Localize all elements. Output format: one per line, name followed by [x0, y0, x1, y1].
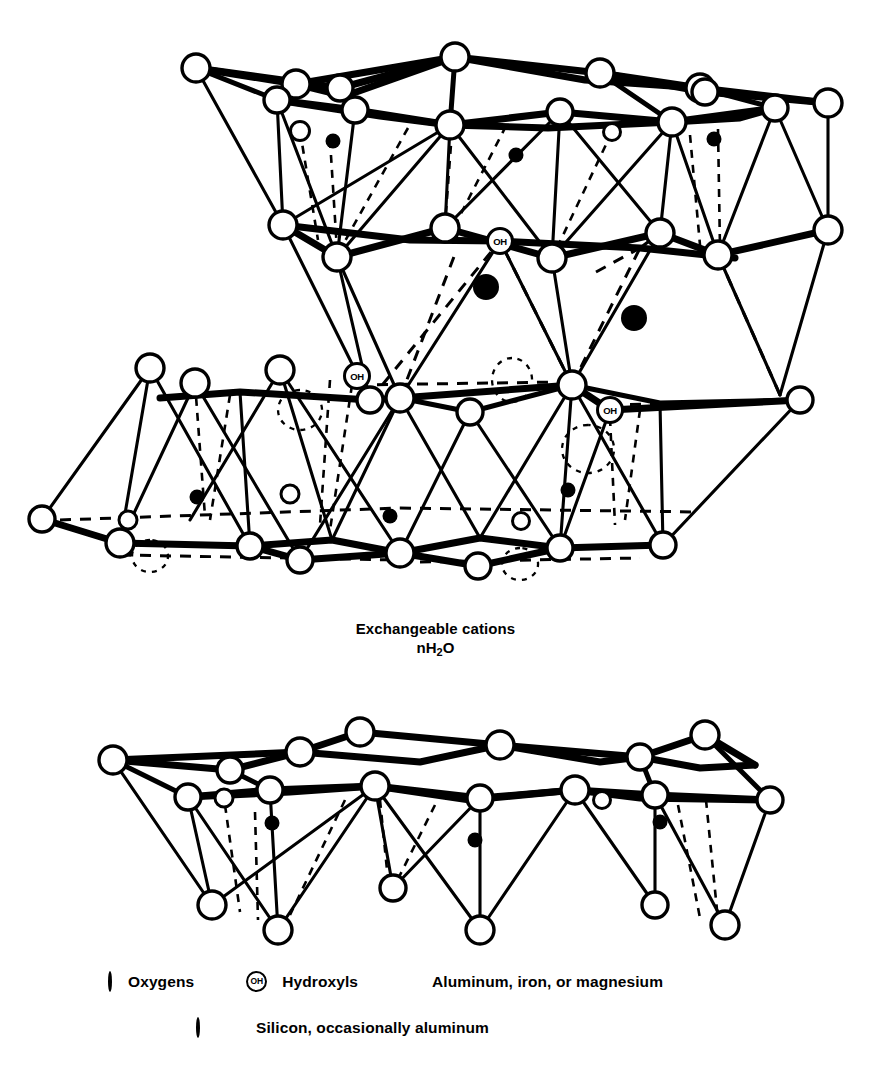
apical-oxygen	[604, 124, 621, 141]
octahedral-cation	[473, 274, 499, 300]
hydroxyl-group: OH	[488, 229, 513, 254]
oxygen	[787, 387, 813, 413]
oxygen	[237, 533, 263, 559]
oxygen	[486, 731, 514, 759]
oxygen	[346, 718, 374, 746]
oxygen	[361, 772, 389, 800]
oxygen	[692, 79, 718, 105]
silicon-cation	[326, 134, 341, 149]
legend-item-silicon: Silicon, occasionally aluminum	[196, 1019, 489, 1037]
oxygen	[436, 111, 464, 139]
oxygen	[762, 95, 788, 121]
oxygen	[217, 757, 243, 783]
oxygen	[704, 241, 732, 269]
oxygen	[386, 539, 414, 567]
oxygen	[257, 777, 283, 803]
oxygen	[264, 916, 292, 944]
silicon-cation	[265, 816, 280, 831]
legend-row-2: Silicon, occasionally aluminum	[0, 1019, 871, 1037]
legend-item-hydroxyls: OH Hydroxyls	[246, 971, 358, 992]
legend-label-silicon: Silicon, occasionally aluminum	[256, 1019, 489, 1037]
oxygen	[642, 782, 668, 808]
oxygen	[627, 744, 653, 770]
oxygen	[269, 211, 297, 239]
silicon-cation	[653, 815, 668, 830]
oxygen	[650, 532, 676, 558]
silicon-cation	[190, 490, 205, 505]
apical-oxygen	[281, 485, 299, 503]
oxygen	[711, 911, 739, 939]
interlayer-water-label: nH2O	[0, 638, 871, 662]
oxygen	[29, 506, 55, 532]
oxygen	[757, 787, 783, 813]
silicon-cation	[468, 833, 483, 848]
oxygen	[181, 369, 209, 397]
oxygen	[323, 243, 351, 271]
hydroxyl-group: OH	[598, 398, 623, 423]
apical-oxygen	[594, 792, 611, 809]
oxygen	[198, 891, 226, 919]
oxygen	[538, 244, 566, 272]
oxygen	[457, 399, 483, 425]
oxygen	[466, 916, 494, 944]
small-open-circle-icon	[196, 1019, 200, 1037]
exchangeable-cations-label: Exchangeable cations	[0, 619, 871, 638]
oxygen	[106, 529, 134, 557]
apical-oxygen	[513, 513, 530, 530]
legend-label-hydroxyls: Hydroxyls	[282, 973, 358, 991]
upper-layer-bottom-tetrahedral-sheet: OH OH	[29, 354, 813, 580]
oxygen	[465, 553, 491, 579]
oxygen	[691, 721, 719, 749]
oxygen	[467, 785, 493, 811]
oxygen	[558, 371, 586, 399]
silicon-cation	[707, 132, 722, 147]
oxygen	[547, 535, 573, 561]
oxygen	[264, 87, 290, 113]
hydroxyl-label: OH	[603, 405, 617, 416]
oxygen	[175, 784, 201, 810]
oxygen	[386, 384, 414, 412]
legend-label-oxygens: Oxygens	[128, 973, 194, 991]
apical-oxygen	[215, 789, 233, 807]
lower-layer-tetrahedral-sheet	[99, 718, 783, 944]
oxygen	[287, 547, 313, 573]
oxygen	[547, 99, 573, 125]
silicon-cation	[561, 483, 576, 498]
oxygen	[357, 387, 383, 413]
hydroxyl-circle-icon: OH	[246, 971, 267, 992]
oxygen	[99, 746, 127, 774]
oxygen	[658, 108, 686, 136]
octahedral-cation	[621, 305, 647, 331]
silicon-cation	[383, 509, 398, 524]
legend-row-1: Oxygens OH Hydroxyls Aluminum, iron, or …	[0, 971, 871, 992]
oxygen	[561, 776, 589, 804]
hydroxyl-icon-text: OH	[251, 977, 263, 986]
hydroxyl-label: OH	[493, 236, 507, 247]
legend: Oxygens OH Hydroxyls Aluminum, iron, or …	[0, 971, 871, 1037]
interlayer-caption: Exchangeable cations nH2O	[0, 619, 871, 662]
oxygen	[182, 54, 210, 82]
oxygen	[646, 219, 674, 247]
oxygen	[266, 356, 294, 384]
oxygen	[441, 43, 469, 71]
apical-oxygen	[119, 511, 137, 529]
oxygen	[586, 59, 614, 87]
oxygen	[342, 97, 368, 123]
silicon-cation	[509, 148, 524, 163]
hydroxyl-label: OH	[350, 371, 364, 382]
legend-label-octahedral-cations: Aluminum, iron, or magnesium	[432, 973, 663, 991]
clay-structure-figure: .bold { stroke:#000; stroke-width:7; fil…	[0, 0, 871, 1069]
oxygen	[814, 216, 842, 244]
legend-item-octahedral-cations: Aluminum, iron, or magnesium	[414, 973, 663, 991]
hydroxyl-group: OH	[345, 364, 370, 389]
legend-item-oxygens: Oxygens	[108, 973, 194, 991]
open-circle-icon	[108, 973, 112, 991]
oxygen	[642, 892, 668, 918]
apical-oxygen	[291, 122, 310, 141]
oxygen	[814, 89, 842, 117]
oxygen	[136, 354, 164, 382]
crystal-structure-drawing: .bold { stroke:#000; stroke-width:7; fil…	[0, 0, 871, 1069]
oxygen	[380, 875, 406, 901]
oxygen	[286, 738, 314, 766]
oxygen	[431, 214, 459, 242]
